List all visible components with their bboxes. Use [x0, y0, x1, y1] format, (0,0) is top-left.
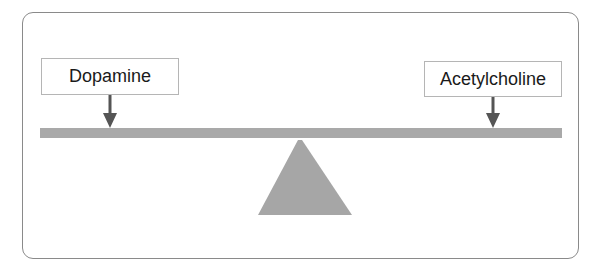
down-arrow-icon — [103, 95, 117, 128]
fulcrum-triangle — [258, 140, 352, 215]
down-arrow-icon — [486, 97, 500, 128]
diagram-graphics — [0, 0, 597, 267]
